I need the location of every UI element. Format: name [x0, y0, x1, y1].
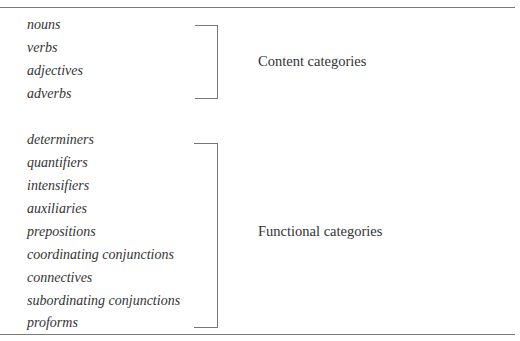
category-item: adjectives — [27, 63, 83, 79]
category-item: coordinating conjunctions — [27, 247, 174, 263]
bottom-rule — [0, 334, 515, 335]
functional-categories-label: Functional categories — [258, 222, 382, 240]
category-item: nouns — [27, 17, 60, 33]
category-item: determiners — [27, 132, 94, 148]
category-item: auxiliaries — [27, 201, 87, 217]
category-item: quantifiers — [27, 155, 88, 171]
category-item: subordinating conjunctions — [27, 293, 180, 309]
content-categories-label: Content categories — [258, 52, 366, 70]
category-item: intensifiers — [27, 178, 89, 194]
category-item: connectives — [27, 270, 92, 286]
category-item: proforms — [27, 315, 78, 331]
category-item: adverbs — [27, 86, 71, 102]
category-item: verbs — [27, 40, 57, 56]
category-item: prepositions — [27, 224, 96, 240]
content-bracket — [195, 25, 218, 99]
functional-bracket — [194, 143, 218, 328]
top-rule — [0, 7, 515, 8]
